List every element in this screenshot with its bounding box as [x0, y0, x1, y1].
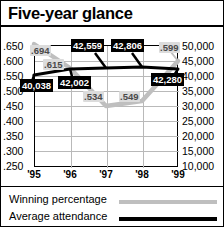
- x-axis-tick: '99: [166, 169, 190, 180]
- legend-item-average-attendance: Average attendance: [9, 209, 217, 226]
- y-axis-right-tick: 45,000: [182, 55, 214, 67]
- data-label-winning-percentage: .615: [43, 59, 64, 70]
- page-title: Five-year glance: [8, 4, 133, 23]
- y-axis-right-tick: 25,000: [182, 115, 214, 127]
- data-label-average-attendance: 42,002: [58, 76, 91, 89]
- data-label-winning-percentage: .599: [159, 42, 180, 53]
- y-axis-right-tick: 20,000: [182, 130, 214, 142]
- y-axis-right-tick: 30,000: [182, 100, 214, 112]
- data-label-average-attendance: 42,280: [151, 73, 184, 86]
- y-axis-left-tick: .450: [3, 100, 32, 112]
- data-label-winning-percentage: .694: [30, 45, 51, 56]
- data-label-winning-percentage: .549: [119, 91, 140, 102]
- x-axis-tick: '97: [94, 169, 118, 180]
- y-axis-right-tick: 40,000: [182, 70, 214, 82]
- data-label-winning-percentage: .534: [83, 91, 104, 102]
- legend-label: Average attendance: [9, 210, 107, 222]
- data-label-average-attendance: 42,559: [71, 39, 104, 52]
- gridline-vertical: [143, 46, 144, 168]
- y-axis-left-tick: .400: [3, 115, 32, 127]
- x-axis-tick: '98: [130, 169, 154, 180]
- x-axis-tick: '96: [58, 169, 82, 180]
- data-label-average-attendance: 40,038: [20, 79, 53, 92]
- legend-item-winning-percentage: Winning percentage: [9, 192, 217, 209]
- y-axis-left-tick: .350: [3, 130, 32, 142]
- x-axis-tick: '95: [22, 169, 46, 180]
- legend-swatch-average-attendance: [119, 217, 217, 221]
- legend-swatch-winning-percentage: [119, 200, 217, 204]
- gridline-vertical: [107, 46, 108, 168]
- y-axis-left-tick: .650: [3, 40, 32, 52]
- legend-label: Winning percentage: [9, 193, 107, 205]
- legend: Winning percentage Average attendance: [1, 186, 224, 227]
- title-bar: Five-year glance: [1, 1, 224, 27]
- y-axis-right-tick: 35,000: [182, 85, 214, 97]
- y-axis-right-tick: 15,000: [182, 145, 214, 157]
- y-axis-left-tick: .600: [3, 55, 32, 67]
- y-axis-right-tick: 50,000: [182, 40, 214, 52]
- y-axis-left-tick: .300: [3, 145, 32, 157]
- gridline-vertical: [71, 46, 72, 168]
- data-label-average-attendance: 42,806: [111, 39, 144, 52]
- five-year-glance-chart: Five-year glance .650 .600 .550 .500 .45…: [0, 0, 224, 227]
